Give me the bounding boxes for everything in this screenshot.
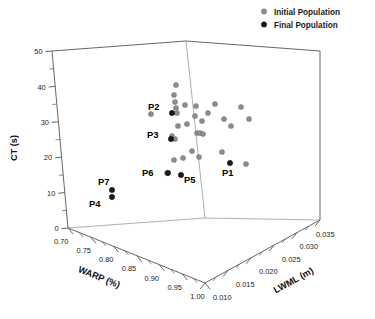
legend-label-initial-population: Initial Population: [274, 8, 340, 17]
data-point-final-P7: [109, 187, 114, 192]
data-point-initial-2: [172, 99, 177, 104]
data-point-initial-16: [175, 123, 180, 128]
data-point-initial-27: [243, 161, 248, 166]
warp-axis-ticks: 0.70 0.75 0.80 0.85 0.90 0.95 1.00: [54, 228, 210, 301]
back-corner-vertical-edge: [186, 41, 205, 218]
data-point-initial-25: [219, 149, 224, 154]
warp-tick-label-1: 0.75: [77, 246, 91, 255]
data-point-initial-20: [200, 131, 205, 136]
data-point-initial-9: [238, 104, 243, 109]
legend-marker-final-population: [261, 22, 266, 27]
data-point-initial-1: [171, 92, 176, 97]
z-axis-title: CT (s): [9, 135, 19, 161]
data-point-initial-4: [174, 110, 179, 115]
data-point-initial-14: [184, 121, 189, 126]
point-label-P4: P4: [89, 198, 101, 209]
point-label-P1: P1: [222, 167, 233, 178]
warp-tick-label-3: 0.85: [122, 264, 136, 273]
data-point-initial-15: [199, 118, 204, 123]
warp-tick-label-6: 1.00: [190, 292, 204, 301]
data-point-initial-7: [193, 103, 198, 108]
point-label-P7: P7: [98, 176, 109, 187]
point-label-P3: P3: [147, 129, 158, 140]
legend-marker-initial-population: [261, 9, 266, 14]
left-wall-top-edge: [52, 41, 186, 51]
data-point-initial-12: [221, 116, 226, 121]
warp-tick-label-5: 0.95: [168, 283, 182, 292]
data-point-initial-10: [192, 113, 197, 118]
z-tick-label-0: 0: [54, 224, 58, 233]
series-final-population: [109, 110, 232, 199]
lwml-axis-title: LWML (m): [272, 265, 315, 295]
legend: Initial Population Final Population: [261, 8, 340, 30]
data-point-initial-11: [205, 110, 210, 115]
data-point-initial-8: [212, 101, 217, 106]
z-tick-label-20: 20: [44, 153, 52, 162]
data-point-initial-26: [180, 155, 185, 160]
lwml-axis-ticks: 0.010 0.015 0.020 0.025 0.030 0.035: [200, 220, 334, 302]
data-point-initial-21: [228, 123, 233, 128]
lwml-tick-label-0: 0.010: [213, 293, 232, 302]
data-point-initial-0: [173, 82, 178, 87]
chart-figure: 0 10 20 30 40 50 CT (s) 0.70: [0, 0, 375, 319]
data-point-initial-13: [246, 116, 251, 121]
data-point-initial-5: [148, 111, 153, 116]
lwml-tick-label-3: 0.025: [282, 255, 301, 264]
legend-label-final-population: Final Population: [274, 21, 338, 30]
data-point-final-P1: [227, 160, 232, 165]
plot-frame: [52, 41, 320, 283]
back-wall-top-edge: [186, 41, 320, 51]
data-point-initial-28: [171, 157, 176, 162]
warp-axis-title: WARP (%): [77, 264, 122, 290]
lwml-tick-label-4: 0.030: [300, 242, 319, 251]
lwml-tick-label-5: 0.035: [316, 230, 335, 239]
point-label-P6: P6: [142, 167, 153, 178]
warp-tick-label-2: 0.80: [99, 255, 113, 264]
warp-tick-label-4: 0.90: [145, 274, 159, 283]
z-tick-label-50: 50: [34, 47, 42, 56]
warp-tick-label-0: 0.70: [54, 237, 68, 246]
data-point-final-P3: [168, 136, 173, 141]
floor-right-back-edge: [205, 218, 320, 220]
data-point-final-P6: [165, 170, 170, 175]
z-axis-ticks: 0 10 20 30 40 50: [34, 47, 68, 233]
data-point-initial-6: [182, 102, 187, 107]
z-tick-label-10: 10: [47, 189, 55, 198]
point-labels-group: P2P3P6P5P1P7P4: [89, 101, 233, 209]
lwml-tick-label-1: 0.015: [236, 280, 255, 289]
point-label-P2: P2: [148, 101, 159, 112]
z-tick-label-30: 30: [41, 118, 49, 127]
data-point-final-P5: [178, 172, 183, 177]
data-point-initial-24: [196, 154, 201, 159]
data-point-initial-23: [189, 148, 194, 153]
series-initial-population: [148, 82, 251, 175]
data-point-initial-3: [173, 105, 178, 110]
scatter-plot-3d: 0 10 20 30 40 50 CT (s) 0.70: [0, 0, 375, 319]
data-point-final-P4: [109, 194, 114, 199]
point-label-P5: P5: [184, 174, 195, 185]
floor-left-back-edge: [68, 218, 205, 228]
z-tick-label-40: 40: [37, 83, 45, 92]
lwml-tick-label-2: 0.020: [259, 267, 278, 276]
data-point-final-P2: [169, 110, 174, 115]
